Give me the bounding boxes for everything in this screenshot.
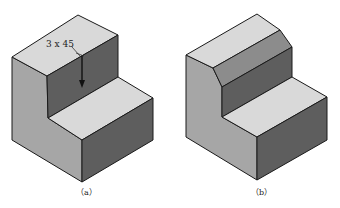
caption-b: （b）	[251, 188, 272, 197]
caption-a: （a）	[76, 188, 97, 197]
chamfer-callout-text: 3 x 45	[46, 39, 74, 49]
diagram-canvas: 3 x 45 （a） （b）	[0, 0, 340, 208]
panel-b-block	[186, 14, 327, 180]
panel-a-block	[12, 15, 153, 182]
